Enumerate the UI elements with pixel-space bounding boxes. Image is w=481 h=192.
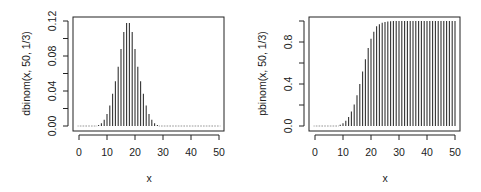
x-tick-label: 0 [76,146,82,158]
pbinom-plot: 01020304050x0.00.40.8pbinom(x, 50, 1/3) [236,0,476,192]
y-axis: 0.000.040.080.12 [46,11,68,137]
plot-frame [73,17,224,131]
y-tick-label: 0.4 [282,77,294,92]
x-tick-label: 40 [421,146,433,158]
y-axis: 0.00.40.8 [282,21,304,133]
x-tick-label: 10 [101,146,113,158]
dbinom-plot: 01020304050x0.000.040.080.12dbinom(x, 50… [0,0,240,192]
x-axis: 01020304050 [76,135,225,158]
y-tick-label: 0.12 [46,11,58,32]
x-axis-title: x [146,172,152,184]
y-tick-label: 0.00 [46,116,58,137]
y-tick-label: 0.08 [46,46,58,67]
x-tick-label: 40 [185,146,197,158]
pbinom-chart-svg: 01020304050x0.00.40.8pbinom(x, 50, 1/3) [236,0,476,192]
x-axis-title: x [382,172,388,184]
x-tick-label: 20 [129,146,141,158]
x-tick-label: 0 [312,146,318,158]
y-tick-label: 0.8 [282,35,294,50]
dbinom-chart-svg: 01020304050x0.000.040.080.12dbinom(x, 50… [0,0,240,192]
x-tick-label: 50 [449,146,461,158]
x-tick-label: 10 [337,146,349,158]
x-axis: 01020304050 [312,135,461,158]
x-tick-label: 30 [393,146,405,158]
y-tick-label: 0.0 [282,119,294,134]
x-tick-label: 30 [157,146,169,158]
y-axis-title: pbinom(x, 50, 1/3) [256,31,268,116]
data-lines [78,23,221,126]
x-tick-label: 50 [213,146,225,158]
x-tick-label: 20 [365,146,377,158]
data-lines [314,21,455,126]
y-axis-title: dbinom(x, 50, 1/3) [20,31,32,116]
y-tick-label: 0.04 [46,81,58,102]
